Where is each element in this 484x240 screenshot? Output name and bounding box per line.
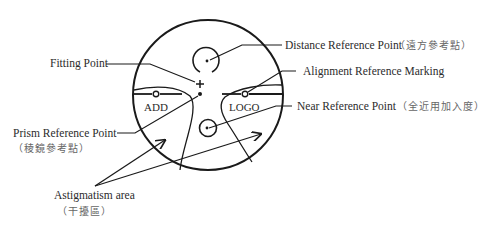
right-astigmatism-boundary [221,85,282,162]
alignment-reference-label: Alignment Reference Marking [303,65,444,78]
fitting-point-label: Fitting Point [50,57,108,70]
near-reference-label: Near Reference Point [297,100,396,113]
prism-reference-dot [198,92,202,96]
astigmatism-arrow-left [95,140,165,186]
distance-reference-circle [193,47,219,72]
distance-reference-leader [210,45,282,60]
logo-marking-circle [242,91,248,97]
prism-reference-cn-label: （稜鏡參考點） [13,143,90,155]
distance-reference-cn-label: （遠方參考點） [395,40,472,52]
astigmatism-cn-label: （干擾區） [57,206,112,218]
distance-reference-dot [206,60,209,63]
add-marking-circle [153,91,159,97]
distance-reference-label: Distance Reference Point [285,39,402,52]
prism-reference-label: Prism Reference Point [13,127,116,140]
astigmatism-arrow-right [95,134,261,186]
fitting-point-cross-icon [196,80,204,88]
near-reference-dot [206,127,209,130]
add-text: ADD [144,101,168,113]
near-reference-cn-label: （全近用加入度） [397,101,484,113]
astigmatism-label: Astigmatism area [54,189,135,202]
fitting-point-leader [106,64,195,82]
alignment-reference-leader [248,71,296,92]
logo-text: LOGO [229,101,260,113]
